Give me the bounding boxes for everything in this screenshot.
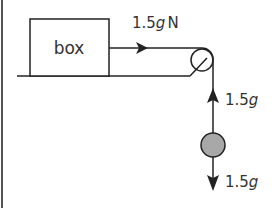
tension-label-up: 1.5g <box>225 91 258 109</box>
box-label: box <box>54 38 85 58</box>
pulley <box>191 49 213 71</box>
tension-label-box: 1.5gN <box>132 14 179 32</box>
pulley-diagram: box 1.5gN 1.5g 1.5g <box>0 0 277 208</box>
weight-label: 1.5g <box>225 173 258 191</box>
hanging-mass <box>201 133 225 157</box>
